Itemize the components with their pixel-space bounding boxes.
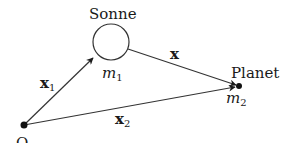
origin-dot <box>21 122 28 129</box>
two-body-diagram: Sonne m1 Planet m2 O x1 x x2 <box>0 0 295 143</box>
planet-mass-symbol: m <box>226 89 240 107</box>
planet-mass-label: m2 <box>226 89 247 108</box>
origin-label: O <box>16 134 28 143</box>
planet-mass-subscript: 2 <box>240 97 246 108</box>
vector-x2-subscript: 2 <box>124 118 130 129</box>
sun-mass-subscript: 1 <box>116 72 122 83</box>
vector-x1-label: x1 <box>40 74 55 93</box>
vector-x-label: x <box>170 45 180 63</box>
vector-x-symbol: x <box>170 45 180 63</box>
sun-mass-label: m1 <box>102 64 123 83</box>
sun-circle <box>93 24 129 60</box>
vector-x2-label: x2 <box>115 110 130 129</box>
sun-mass-symbol: m <box>102 64 116 82</box>
planet-label: Planet <box>231 64 279 82</box>
vector-x1-subscript: 1 <box>49 82 55 93</box>
sun-label: Sonne <box>89 5 137 23</box>
vector-x-arrow <box>128 49 236 85</box>
